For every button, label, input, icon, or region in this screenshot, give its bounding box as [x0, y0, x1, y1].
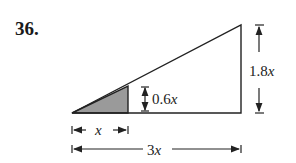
- svg-text:0.6x: 0.6x: [152, 91, 178, 107]
- large-height-label: 1.8: [249, 63, 268, 79]
- svg-text:3x: 3x: [147, 142, 162, 158]
- small-base-label: x: [94, 122, 102, 138]
- large-base-dimension: 3x: [72, 142, 241, 158]
- small-height-dimension: 0.6x: [141, 87, 178, 111]
- svg-text:1.8x: 1.8x: [249, 63, 275, 79]
- large-height-dimension: 1.8x: [249, 25, 275, 113]
- similar-triangles-diagram: 0.6x 1.8x x 3x: [0, 0, 296, 163]
- small-base-dimension: x: [72, 122, 128, 138]
- large-base-label: 3: [147, 142, 155, 158]
- small-height-label: 0.6: [152, 91, 171, 107]
